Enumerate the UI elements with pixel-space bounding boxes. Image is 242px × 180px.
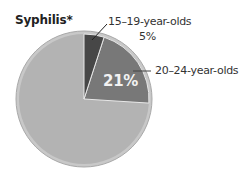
label-20-24: 20–24-year-olds	[155, 64, 238, 77]
label-15-19-pct: 5%	[139, 30, 156, 43]
label-20-24-pct: 21%	[103, 72, 138, 90]
label-15-19: 15–19-year-olds	[108, 15, 191, 28]
